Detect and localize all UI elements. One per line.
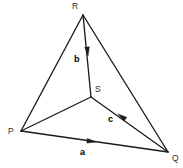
vertex-label-S: S — [95, 84, 101, 94]
vertex-label-R: R — [72, 1, 78, 11]
vector-label-a: a — [80, 147, 86, 157]
vector-label-b: b — [74, 54, 80, 64]
vertex-labels: R P Q S — [8, 1, 179, 163]
vector-label-c: c — [108, 114, 113, 124]
diagram-canvas: R P Q S a b c — [0, 0, 183, 168]
segment-P-S — [21, 97, 91, 131]
vertex-label-P: P — [8, 126, 14, 136]
vector-diagram-figure: R P Q S a b c — [0, 0, 183, 168]
arrowhead-vector-a — [87, 138, 96, 143]
segment-R-S — [83, 15, 91, 97]
segment-S-Q — [91, 97, 168, 152]
edge-R-P — [21, 15, 83, 131]
vertex-label-Q: Q — [172, 153, 179, 163]
